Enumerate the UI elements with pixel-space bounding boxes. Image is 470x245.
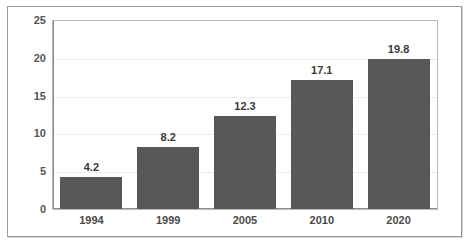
y-tick-label-10: 10	[16, 128, 46, 139]
bar-1999[interactable]: 8.2	[137, 147, 199, 209]
bar-2020[interactable]: 19.8	[368, 59, 430, 209]
chart-screenshot: 25 20 15 10 5 0 4.2 8.2 12.3 17.1 1	[0, 0, 470, 245]
x-label-2005: 2005	[207, 215, 284, 226]
bar-slot-1999: 8.2	[130, 20, 207, 209]
x-label-2020: 2020	[360, 215, 437, 226]
bar-slot-2020: 19.8	[360, 20, 437, 209]
y-tick-label-25: 25	[16, 15, 46, 26]
x-axis-labels: 1994 1999 2005 2010 2020	[53, 215, 437, 226]
y-tick-label-5: 5	[16, 166, 46, 177]
bar-value-2005: 12.3	[214, 101, 276, 112]
bar-value-2020: 19.8	[368, 44, 430, 55]
bar-1994[interactable]: 4.2	[60, 177, 122, 209]
bar-2010[interactable]: 17.1	[291, 80, 353, 209]
bar-slot-2010: 17.1	[283, 20, 360, 209]
x-label-1994: 1994	[53, 215, 130, 226]
y-tick-label-15: 15	[16, 90, 46, 101]
y-tick-label-20: 20	[16, 52, 46, 63]
bar-value-2010: 17.1	[291, 65, 353, 76]
bar-slot-1994: 4.2	[53, 20, 130, 209]
bars-layer: 4.2 8.2 12.3 17.1 19.8	[53, 20, 437, 209]
bar-value-1994: 4.2	[60, 162, 122, 173]
x-label-1999: 1999	[130, 215, 207, 226]
bar-2005[interactable]: 12.3	[214, 116, 276, 209]
bar-slot-2005: 12.3	[207, 20, 284, 209]
x-label-2010: 2010	[283, 215, 360, 226]
bar-value-1999: 8.2	[137, 132, 199, 143]
y-tick-label-0: 0	[16, 204, 46, 215]
